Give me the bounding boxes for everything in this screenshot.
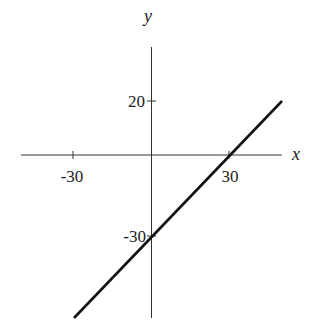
y-axis-label: y [142, 6, 152, 26]
y-tick-label-neg30: -30 [123, 227, 146, 246]
y-tick-label-20: 20 [128, 92, 145, 111]
x-axis-label: x [291, 144, 300, 164]
data-line [74, 101, 282, 318]
chart-canvas: y x -30 30 20 -30 [0, 0, 316, 332]
x-tick-label-neg30: -30 [61, 167, 84, 186]
x-tick-label-30: 30 [222, 167, 239, 186]
